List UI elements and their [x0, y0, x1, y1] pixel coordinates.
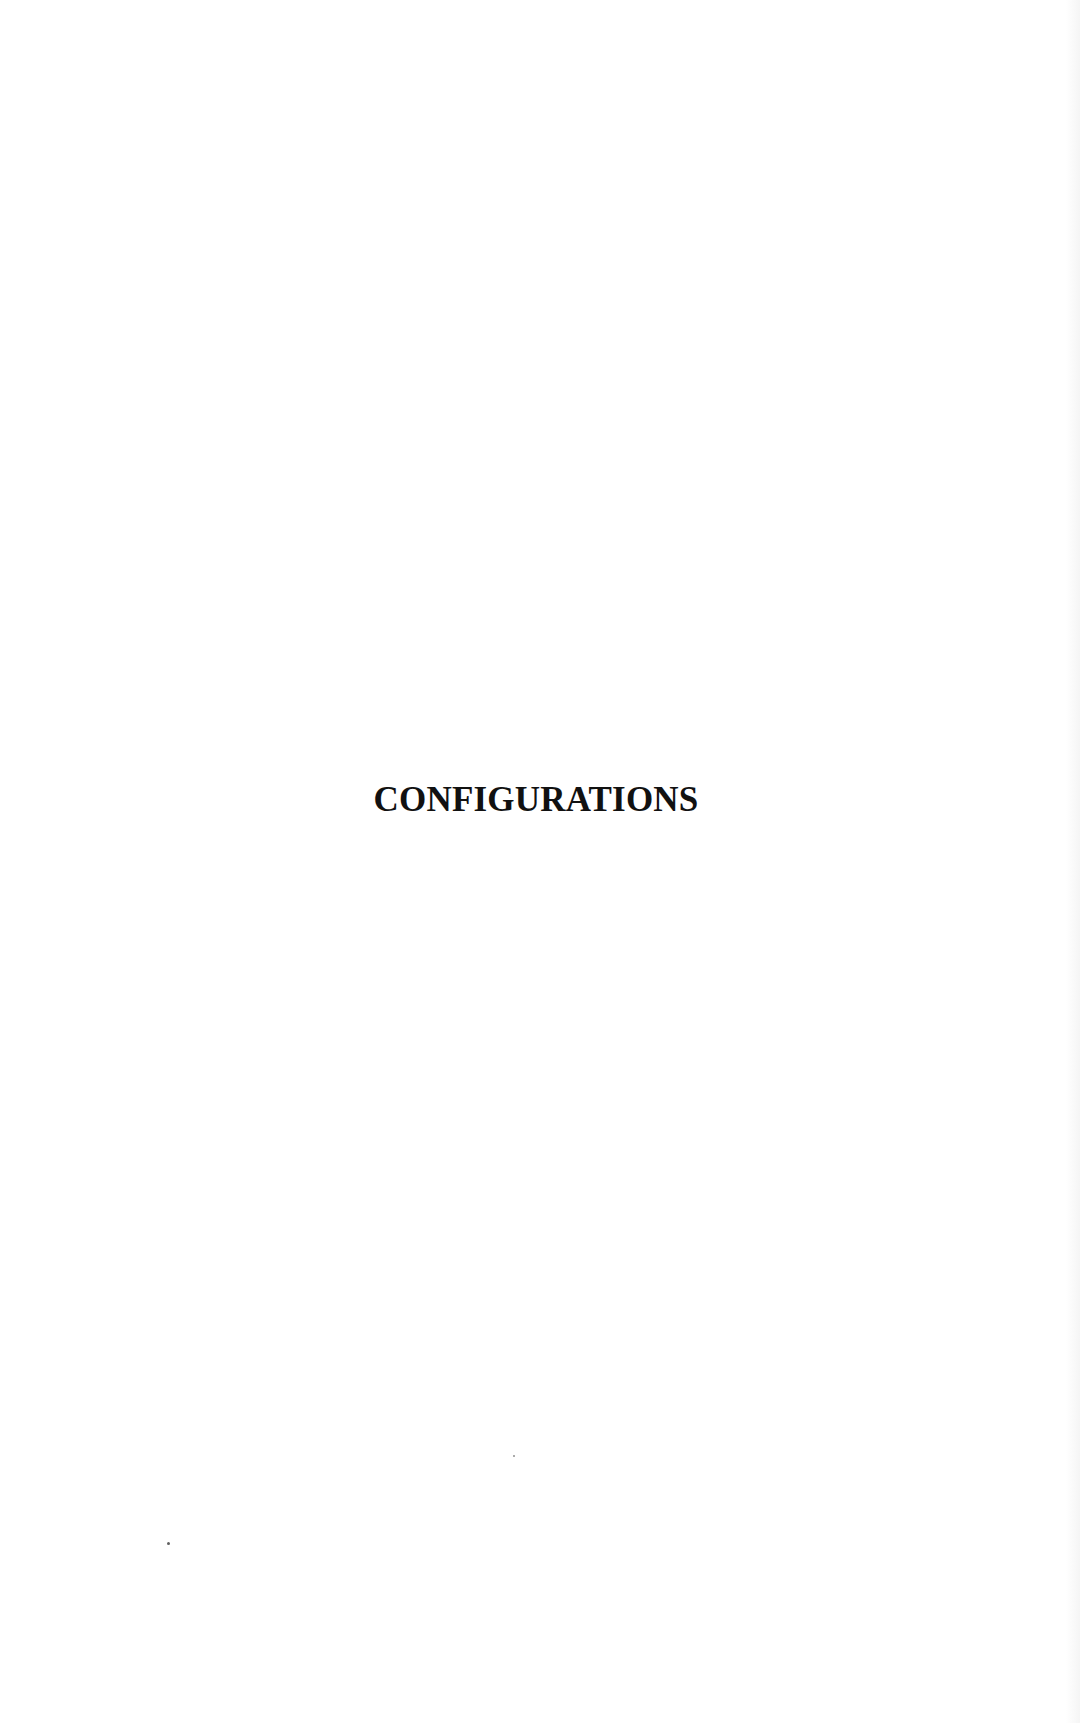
- page-edge-shading: [1066, 0, 1080, 1723]
- document-page: CONFIGURATIONS: [0, 0, 1080, 1723]
- scan-speck: [167, 1542, 170, 1545]
- section-title: CONFIGURATIONS: [0, 780, 1072, 820]
- scan-speck: [513, 1455, 515, 1457]
